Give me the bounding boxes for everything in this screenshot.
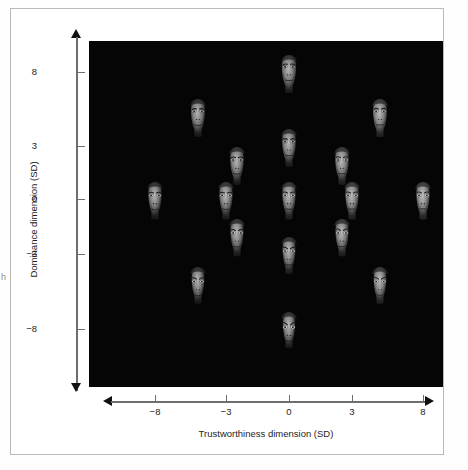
face-dominant-trustworthy [365, 95, 395, 137]
x-axis-line [111, 401, 426, 403]
face-stimulus-svg [274, 178, 304, 220]
x-axis-tick [289, 395, 290, 402]
y-axis-tick-label: −8 [13, 324, 37, 334]
y-axis-arrow-down-icon [71, 383, 81, 392]
face-trustworthy-extreme [408, 178, 438, 220]
face-stimulus-svg [140, 178, 170, 220]
face-dominant-neutral-trust [274, 51, 304, 93]
y-axis-tick [78, 254, 85, 255]
x-axis-tick [226, 395, 227, 402]
face-stimulus-svg [274, 125, 304, 167]
face-stimulus-svg [408, 178, 438, 220]
face-dominant-untrustworthy [183, 95, 213, 137]
face-mid-submissive [274, 233, 304, 275]
y-axis-title: Dominance dimension (SD) [28, 140, 39, 300]
face-stimulus-svg [183, 263, 213, 305]
x-axis-tick-label: 8 [408, 407, 438, 417]
y-axis-tick [78, 329, 85, 330]
x-axis-tick-label: −3 [211, 407, 241, 417]
face-mid-submissive-trust [327, 215, 357, 257]
figure-frame: 830−3−8 Dominance dimension (SD) −8−3038… [10, 8, 444, 455]
face-stimulus-svg [274, 308, 304, 350]
y-axis-line [76, 37, 78, 391]
face-submissive-trust [365, 263, 395, 305]
x-axis-arrow-right-icon [425, 396, 434, 406]
face-stimulus-svg [365, 263, 395, 305]
x-axis-tick-label: 0 [274, 407, 304, 417]
face-untrustworthy-extreme [140, 178, 170, 220]
x-axis-tick-label: 3 [337, 407, 367, 417]
face-submissive-untrust [183, 263, 213, 305]
page-edge-text-artifact: h [1, 272, 6, 282]
face-mid-submissive-untrust [222, 215, 252, 257]
y-axis-tick [78, 146, 85, 147]
face-stimulus-svg [327, 215, 357, 257]
face-stimulus-svg [222, 215, 252, 257]
y-axis-tick [78, 72, 85, 73]
face-stimulus-svg [365, 95, 395, 137]
face-submissive-neutral [274, 308, 304, 350]
y-axis-tick-label: 8 [13, 67, 37, 77]
x-axis-tick [155, 395, 156, 402]
face-stimulus-svg [274, 233, 304, 275]
x-axis-tick [423, 395, 424, 402]
x-axis-title: Trustworthiness dimension (SD) [89, 428, 443, 439]
face-stimulus-svg [183, 95, 213, 137]
y-axis-tick [78, 199, 85, 200]
face-stimulus-svg [274, 51, 304, 93]
scatter-plot-area [89, 41, 443, 387]
x-axis-tick-label: −8 [140, 407, 170, 417]
x-axis-tick [352, 395, 353, 402]
face-mid-dominant [274, 125, 304, 167]
face-average [274, 178, 304, 220]
